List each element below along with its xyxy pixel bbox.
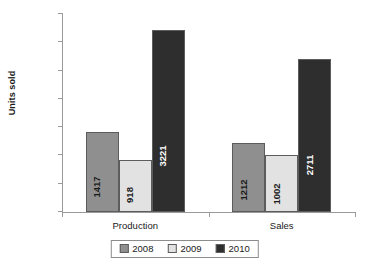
legend-label: 2010 — [229, 244, 250, 254]
legend-item[interactable]: 2010 — [216, 244, 250, 254]
legend-swatch-icon — [119, 244, 128, 253]
bars-container: 14179183221121210022711 — [62, 14, 355, 212]
bar-value-label: 918 — [124, 187, 135, 203]
x-axis-tick-mark — [209, 212, 210, 217]
bar: 3221 — [152, 30, 185, 212]
bar-value-label: 1002 — [271, 183, 282, 204]
bar: 918 — [119, 160, 152, 212]
bar-value-label: 3221 — [157, 146, 168, 167]
legend-swatch-icon — [216, 244, 225, 253]
bar-chart: Units sold 0500100015002000250030003500 … — [0, 0, 369, 272]
x-axis-tick-mark — [62, 212, 63, 217]
chart-legend: 200820092010 — [110, 240, 258, 258]
x-axis-category-label: Sales — [222, 220, 342, 231]
bar: 1417 — [86, 132, 119, 212]
bar: 1212 — [232, 143, 265, 212]
legend-item[interactable]: 2009 — [167, 244, 201, 254]
bar: 1002 — [265, 155, 298, 212]
bar: 2711 — [298, 59, 331, 212]
x-axis-category-label: Production — [75, 220, 195, 231]
bar-value-label: 1212 — [238, 180, 249, 201]
legend-label: 2008 — [132, 244, 153, 254]
legend-swatch-icon — [167, 244, 176, 253]
y-axis-label: Units sold — [7, 53, 17, 133]
x-axis-tick-mark — [355, 212, 356, 217]
bar-value-label: 2711 — [304, 155, 315, 176]
legend-label: 2009 — [180, 244, 201, 254]
bar-value-label: 1417 — [91, 176, 102, 197]
legend-item[interactable]: 2008 — [119, 244, 153, 254]
